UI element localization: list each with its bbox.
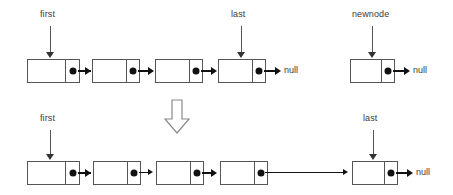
link-arrowhead-after-4-5 <box>343 169 348 175</box>
node-after-2-data <box>94 162 130 184</box>
pointer-arrowhead-last-after <box>369 154 377 160</box>
node-before-1-data <box>28 60 67 82</box>
pointer-dot-icon <box>194 170 201 177</box>
null-label-before-tail: null <box>284 65 298 75</box>
node-after-4-data <box>221 162 257 184</box>
pointer-dot-icon <box>193 68 200 75</box>
pointer-dot-icon <box>258 170 265 177</box>
node-after-4 <box>220 161 268 185</box>
node-before-4-data <box>219 60 255 82</box>
link-arrowhead-before-1-2 <box>85 67 91 75</box>
node-after-4-pointer <box>254 162 267 184</box>
link-after-4-5 <box>265 172 345 173</box>
node-before-2-data <box>93 60 129 82</box>
label-last-before: last <box>231 9 245 19</box>
pointer-dot-icon <box>388 170 395 177</box>
label-newnode: newnode <box>352 9 389 19</box>
pointer-dot-icon <box>256 68 263 75</box>
node-newnode-data <box>351 60 384 82</box>
pointer-dot-icon <box>69 68 76 75</box>
label-first-after: first <box>40 113 55 123</box>
pointer-dot-icon <box>69 170 76 177</box>
pointer-line-first-after <box>50 130 51 156</box>
pointer-dot-icon <box>131 170 138 177</box>
label-last-after: last <box>363 113 377 123</box>
link-arrowhead-newnode-null <box>404 67 410 75</box>
linked-list-diagram: first last newnode <box>0 0 453 195</box>
node-newnode <box>350 59 395 83</box>
pointer-arrowhead-last-before <box>237 52 245 58</box>
node-after-1-data <box>28 162 67 184</box>
node-before-4 <box>218 59 266 83</box>
pointer-arrowhead-first-before <box>46 52 54 58</box>
node-after-3-data <box>157 162 193 184</box>
node-after-5 <box>352 161 398 185</box>
transition-down-arrow-icon <box>163 99 191 139</box>
node-after-1 <box>27 161 80 185</box>
link-arrowhead-after-2-3 <box>148 169 153 175</box>
link-arrowhead-after-5-null <box>407 169 413 177</box>
node-after-5-data <box>353 162 387 184</box>
pointer-line-first-before <box>50 26 51 54</box>
node-before-3-data <box>156 60 192 82</box>
link-arrowhead-after-1-2 <box>85 169 91 177</box>
link-arrowhead-before-2-3 <box>148 67 154 75</box>
node-before-2 <box>92 59 140 83</box>
link-arrowhead-before-3-4 <box>211 67 217 75</box>
pointer-arrowhead-first-after <box>46 154 54 160</box>
node-before-3 <box>155 59 203 83</box>
link-arrowhead-after-3-4 <box>211 169 217 177</box>
node-after-3 <box>156 161 204 185</box>
node-before-1-pointer <box>65 60 79 82</box>
node-after-2 <box>93 161 141 185</box>
pointer-dot-icon <box>385 68 392 75</box>
pointer-arrowhead-newnode <box>368 52 376 58</box>
link-arrowhead-before-4-null <box>275 67 281 75</box>
node-after-2-pointer <box>127 162 140 184</box>
node-before-1 <box>27 59 80 83</box>
node-after-1-pointer <box>65 162 79 184</box>
pointer-line-last-after <box>373 130 374 156</box>
null-label-newnode: null <box>413 65 427 75</box>
pointer-dot-icon <box>130 68 137 75</box>
null-label-after-tail: null <box>416 167 430 177</box>
pointer-line-newnode <box>372 26 373 54</box>
label-first-before: first <box>40 9 55 19</box>
pointer-line-last-before <box>241 26 242 54</box>
